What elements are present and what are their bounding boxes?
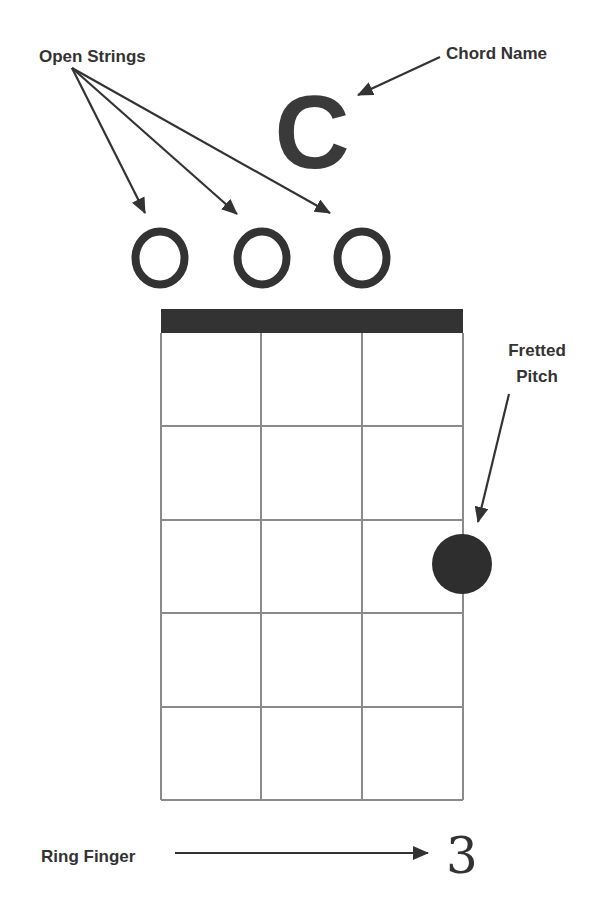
chord-name-label: Chord Name bbox=[446, 44, 547, 63]
fretted-pitch-label-line2: Pitch bbox=[516, 367, 558, 386]
open-string-markers bbox=[136, 232, 387, 285]
arrow-icon bbox=[478, 394, 509, 522]
fretboard bbox=[161, 309, 463, 800]
arrow-icon bbox=[358, 57, 440, 95]
fretted-pitch-label-line1: Fretted bbox=[508, 341, 566, 360]
nut bbox=[161, 309, 463, 333]
finger-number: 3 bbox=[446, 827, 478, 885]
fretted-note-dot bbox=[432, 534, 492, 594]
open-string-circle-icon bbox=[136, 232, 185, 285]
ring-finger-label: Ring Finger bbox=[41, 847, 136, 866]
open-strings-label: Open Strings bbox=[39, 47, 146, 66]
chord-diagram: Open Strings Chord Name C bbox=[0, 0, 614, 904]
chord-name: C bbox=[274, 74, 349, 190]
open-string-circle-icon bbox=[338, 232, 387, 285]
arrow-icon bbox=[72, 68, 237, 214]
open-string-circle-icon bbox=[238, 232, 287, 285]
